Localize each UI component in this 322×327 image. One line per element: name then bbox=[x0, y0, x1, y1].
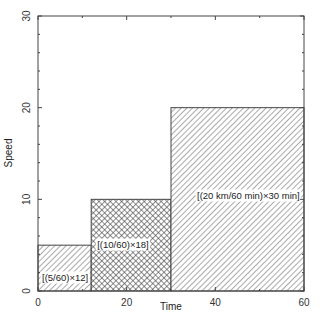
y-tick-label: 20 bbox=[21, 102, 32, 114]
bar-2-label: [(10/60)×18] bbox=[97, 239, 149, 250]
bar-3-label: [(20 km/60 min)×30 min] bbox=[197, 190, 300, 201]
bars-group: [(5/60)×12][(10/60)×18][(20 km/60 min)×3… bbox=[38, 108, 304, 291]
x-tick-label: 0 bbox=[35, 297, 41, 308]
x-tick-label: 60 bbox=[298, 297, 310, 308]
y-tick-label: 30 bbox=[21, 10, 32, 22]
y-axis-label: Speed bbox=[3, 139, 14, 168]
bar-1-label: [(5/60)×12] bbox=[42, 272, 88, 283]
x-axis-label: Time bbox=[160, 301, 182, 312]
bar-1 bbox=[38, 245, 91, 291]
x-tick-label: 20 bbox=[121, 297, 133, 308]
x-tick-label: 40 bbox=[210, 297, 222, 308]
step-speed-chart: [(5/60)×12][(10/60)×18][(20 km/60 min)×3… bbox=[0, 0, 322, 327]
y-tick-label: 10 bbox=[21, 193, 32, 205]
y-tick-label: 0 bbox=[21, 288, 32, 294]
